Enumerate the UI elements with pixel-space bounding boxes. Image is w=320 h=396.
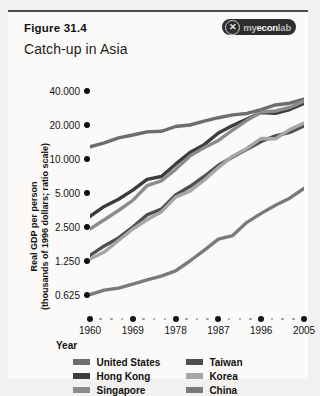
- x-tick-minor-dot-icon: [249, 318, 252, 321]
- x-tick-minor-dot-icon: [206, 318, 209, 321]
- legend-swatch-icon: [73, 373, 90, 379]
- x-tick-major-dot-icon: [173, 316, 179, 322]
- x-tick-minor-dot-icon: [110, 318, 113, 321]
- x-tick-minor-dot-icon: [239, 318, 242, 321]
- legend-item-united-states[interactable]: United States: [73, 356, 160, 368]
- legend-label: Taiwan: [209, 357, 242, 368]
- x-tick-label: 1978: [164, 325, 186, 336]
- y-tick-label: 40.000: [49, 86, 80, 97]
- series-line-korea: [90, 123, 304, 259]
- x-tick-minor-dot-icon: [196, 318, 199, 321]
- x-tick-label: 1996: [250, 325, 272, 336]
- x-tick-minor-dot-icon: [292, 318, 295, 321]
- legend-column-left: United StatesHong KongSingapore: [73, 356, 160, 396]
- x-tick-major-dot-icon: [258, 316, 264, 322]
- legend-label: Singapore: [96, 385, 145, 396]
- legend-swatch-icon: [73, 387, 90, 393]
- legend-item-korea[interactable]: Korea: [186, 370, 242, 382]
- y-tick-label: 10.000: [49, 154, 80, 165]
- y-tick: 40.000: [32, 85, 90, 97]
- figure-card: Figure 31.4 ✕ myeconlab Catch-up in Asia…: [8, 10, 308, 378]
- x-tick-minor-dot-icon: [153, 318, 156, 321]
- x-tick-minor-dot-icon: [99, 318, 102, 321]
- x-tick-label: 2005: [293, 325, 315, 336]
- x-axis-labels: 196019691978198719962005: [90, 325, 320, 339]
- x-tick-major-dot-icon: [130, 316, 136, 322]
- legend-label: Hong Kong: [96, 371, 150, 382]
- x-tick-label: 1969: [122, 325, 144, 336]
- legend-label: United States: [96, 357, 160, 368]
- legend-label: China: [209, 385, 237, 396]
- legend-column-right: TaiwanKoreaChina: [186, 356, 242, 396]
- logo-main: econ: [256, 22, 277, 33]
- x-axis-title: Year: [56, 340, 77, 351]
- logo-suffix: lab: [278, 22, 291, 33]
- y-tick: 5.000: [32, 187, 90, 199]
- x-tick-minor-dot-icon: [271, 318, 274, 321]
- legend-swatch-icon: [186, 359, 203, 365]
- figure-title: Catch-up in Asia: [24, 41, 128, 57]
- legend-swatch-icon: [186, 387, 203, 393]
- myeconlab-wordmark: myeconlab: [243, 22, 291, 33]
- x-tick-major-dot-icon: [87, 316, 93, 322]
- y-axis-ticks: 40.00020.00010.0005.0002.5001.2500.625: [32, 64, 90, 316]
- chart-lines: [90, 64, 304, 316]
- y-axis-title: Real GDP per person(thousands of 1996 do…: [12, 64, 34, 316]
- series-line-hong-kong: [90, 104, 304, 217]
- y-tick: 20.000: [32, 119, 90, 131]
- y-tick: 1.250: [32, 255, 90, 267]
- y-tick-label: 0.625: [55, 290, 80, 301]
- legend-item-singapore[interactable]: Singapore: [73, 384, 160, 396]
- y-tick-label: 5.000: [55, 188, 80, 199]
- x-tick-minor-dot-icon: [164, 318, 167, 321]
- legend-swatch-icon: [73, 359, 90, 365]
- x-tick-major-dot-icon: [215, 316, 221, 322]
- legend-item-taiwan[interactable]: Taiwan: [186, 356, 242, 368]
- x-tick-label: 1960: [79, 325, 101, 336]
- x-tick-label: 1987: [207, 325, 229, 336]
- legend-item-china[interactable]: China: [186, 384, 242, 396]
- y-tick-label: 2.500: [55, 222, 80, 233]
- x-tick-minor-dot-icon: [281, 318, 284, 321]
- x-tick-minor-dot-icon: [228, 318, 231, 321]
- legend-label: Korea: [209, 371, 237, 382]
- legend-item-hong-kong[interactable]: Hong Kong: [73, 370, 160, 382]
- x-tick-major-dot-icon: [301, 316, 307, 322]
- series-line-singapore: [90, 101, 304, 229]
- x-tick-minor-dot-icon: [142, 318, 145, 321]
- figure-number: Figure 31.4: [24, 22, 87, 34]
- chart-legend: United StatesHong KongSingapore TaiwanKo…: [8, 356, 308, 396]
- myeconlab-mark-icon: ✕: [225, 20, 240, 35]
- y-tick: 0.625: [32, 289, 90, 301]
- legend-swatch-icon: [186, 373, 203, 379]
- x-tick-minor-dot-icon: [121, 318, 124, 321]
- y-tick: 2.500: [32, 221, 90, 233]
- myeconlab-logo: ✕ myeconlab: [222, 19, 296, 35]
- y-tick-label: 1.250: [55, 256, 80, 267]
- plot-area: Real GDP per person(thousands of 1996 do…: [8, 64, 308, 316]
- series-line-china: [90, 188, 304, 294]
- y-tick-label: 20.000: [49, 120, 80, 131]
- logo-prefix: my: [243, 22, 256, 33]
- x-tick-minor-dot-icon: [185, 318, 188, 321]
- y-tick: 10.000: [32, 153, 90, 165]
